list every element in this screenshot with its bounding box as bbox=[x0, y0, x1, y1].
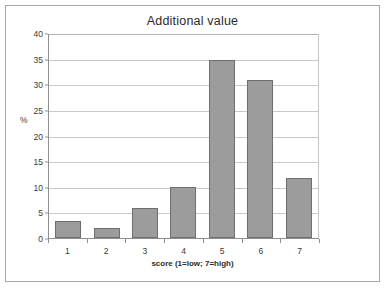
bar-slot bbox=[87, 34, 125, 238]
x-tick-mark bbox=[125, 239, 126, 243]
bar-slot bbox=[49, 34, 87, 238]
y-tick-label: 30 bbox=[34, 80, 43, 90]
x-tick-label: 4 bbox=[181, 246, 186, 256]
x-tick-label: 6 bbox=[259, 246, 264, 256]
bar-5[interactable] bbox=[209, 60, 235, 239]
x-tick-label: 3 bbox=[142, 246, 147, 256]
y-tick-label: 40 bbox=[34, 29, 43, 39]
y-tick-mark bbox=[45, 162, 48, 163]
y-tick-label: 10 bbox=[34, 183, 43, 193]
plot-right-edge bbox=[318, 34, 319, 239]
y-tick-label: 20 bbox=[34, 132, 43, 142]
y-tick-mark bbox=[45, 213, 48, 214]
bar-2[interactable] bbox=[94, 228, 120, 238]
y-tick-label: 25 bbox=[34, 106, 43, 116]
y-tick-mark bbox=[45, 59, 48, 60]
x-tick-mark bbox=[242, 239, 243, 243]
y-axis-title: % bbox=[20, 115, 28, 125]
chart-frame: Additional value % 4035302520151050 1234… bbox=[5, 5, 380, 282]
bar-3[interactable] bbox=[132, 208, 158, 238]
x-tick-mark bbox=[164, 239, 165, 243]
bar-slot bbox=[203, 34, 241, 238]
x-tick-label: 7 bbox=[297, 246, 302, 256]
plot-area: 4035302520151050 1234567 bbox=[48, 34, 319, 239]
y-tick-mark bbox=[45, 110, 48, 111]
x-tick-label: 1 bbox=[65, 246, 70, 256]
bar-slot bbox=[164, 34, 202, 238]
x-tick-mark bbox=[48, 239, 49, 243]
y-tick-label: 35 bbox=[34, 55, 43, 65]
x-tick-label: 2 bbox=[104, 246, 109, 256]
x-axis-title: score (1=low; 7=high) bbox=[6, 259, 379, 268]
bar-6[interactable] bbox=[247, 80, 273, 238]
y-tick-mark bbox=[45, 85, 48, 86]
bar-slot bbox=[280, 34, 318, 238]
y-tick-mark bbox=[45, 187, 48, 188]
x-axis-line bbox=[48, 238, 319, 239]
y-tick-label: 0 bbox=[38, 234, 43, 244]
x-tick-mark bbox=[87, 239, 88, 243]
bar-slot bbox=[241, 34, 279, 238]
x-tick-mark bbox=[319, 239, 320, 243]
bar-4[interactable] bbox=[170, 187, 196, 238]
y-tick-mark bbox=[45, 34, 48, 35]
y-tick-label: 15 bbox=[34, 157, 43, 167]
bar-7[interactable] bbox=[286, 178, 312, 238]
bars-group bbox=[49, 34, 318, 238]
bar-slot bbox=[126, 34, 164, 238]
chart-title: Additional value bbox=[6, 14, 379, 28]
x-tick-label: 5 bbox=[220, 246, 225, 256]
bar-1[interactable] bbox=[55, 221, 81, 238]
x-tick-mark bbox=[203, 239, 204, 243]
y-tick-label: 5 bbox=[38, 208, 43, 218]
y-tick-mark bbox=[45, 136, 48, 137]
x-tick-mark bbox=[280, 239, 281, 243]
